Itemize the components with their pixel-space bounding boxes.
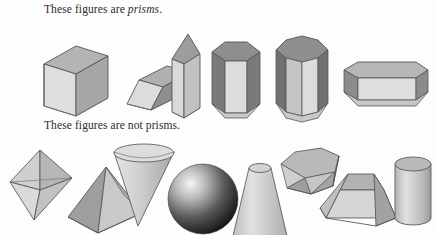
figure-truncated-pyramid: [318, 168, 400, 230]
caption-prisms-emphasis: prisms: [128, 3, 159, 15]
figure-horizontal-hexagonal-prism: [334, 56, 432, 112]
prisms-figure-row: [0, 24, 437, 116]
caption-prisms-lead: These figures are: [44, 3, 128, 15]
figure-hexagonal-prism: [209, 28, 263, 124]
caption-prisms-trailing: .: [159, 3, 162, 15]
figure-rectangular-prism: [38, 42, 114, 120]
figure-cylinder: [390, 152, 436, 234]
figure-page: These figures are prisms.: [0, 0, 437, 235]
figure-triangular-prism: [168, 32, 204, 122]
figure-octagonal-prism: [272, 26, 332, 126]
caption-prisms: These figures are prisms.: [44, 3, 162, 15]
not-prisms-figure-row: [0, 140, 437, 235]
caption-not-prisms: These figures are not prisms.: [44, 119, 180, 131]
